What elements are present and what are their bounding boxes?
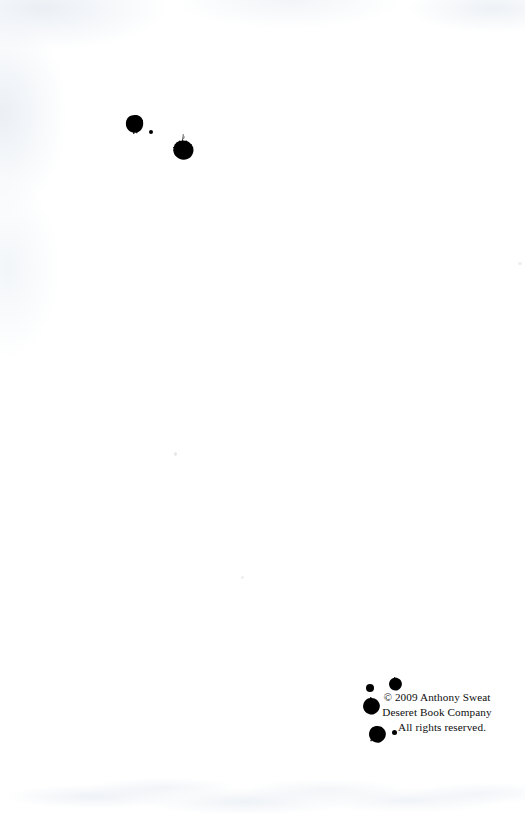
copyright-page: © 2009 Anthony Sweat Deseret Book Compan… bbox=[0, 0, 525, 814]
paper-speck-right bbox=[518, 262, 522, 265]
paper-speck bbox=[174, 452, 177, 456]
ink-blot-speck-upper bbox=[149, 130, 153, 134]
copyright-line-publisher: Deseret Book Company bbox=[382, 705, 492, 720]
paper-scan-bottom-noise bbox=[0, 752, 525, 814]
ink-blot-large-left bbox=[362, 697, 381, 716]
ink-blot-small-top-left bbox=[366, 684, 374, 692]
ink-blot-large-upper bbox=[124, 114, 146, 136]
ink-blot-splatter-main bbox=[166, 131, 200, 165]
copyright-line-rights: All rights reserved. bbox=[382, 720, 492, 735]
copyright-line-holder: © 2009 Anthony Sweat bbox=[382, 690, 492, 705]
paper-speck-secondary bbox=[241, 576, 244, 579]
copyright-notice: © 2009 Anthony Sweat Deseret Book Compan… bbox=[382, 690, 492, 734]
